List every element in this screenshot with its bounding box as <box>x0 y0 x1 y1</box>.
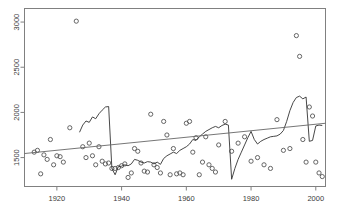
data-point <box>191 150 195 154</box>
data-point <box>217 143 221 147</box>
data-point <box>207 163 211 167</box>
data-point <box>74 19 78 23</box>
data-point <box>242 135 246 139</box>
data-point <box>155 165 159 169</box>
data-point <box>288 146 292 150</box>
data-point <box>90 154 94 158</box>
data-point <box>39 172 43 176</box>
data-point <box>158 171 162 175</box>
data-point <box>223 119 227 123</box>
data-point <box>301 137 305 141</box>
y-tick-label: 1500 <box>12 149 21 166</box>
data-point <box>97 145 101 149</box>
data-point <box>317 171 321 175</box>
data-point <box>262 163 266 167</box>
data-point <box>200 160 204 164</box>
data-point <box>87 141 91 145</box>
data-point <box>268 166 272 170</box>
data-point <box>42 153 46 157</box>
data-point <box>165 133 169 137</box>
data-point <box>197 173 201 177</box>
data-point <box>168 173 172 177</box>
data-point <box>94 163 98 167</box>
data-point <box>314 160 318 164</box>
data-point <box>210 166 214 170</box>
x-tick-label: 1940 <box>113 194 130 203</box>
y-tick-label: 3000 <box>12 14 21 31</box>
data-point <box>281 148 285 152</box>
data-point <box>249 159 253 163</box>
x-tick-label: 2000 <box>307 194 324 203</box>
data-point <box>48 137 52 141</box>
data-point <box>320 174 324 178</box>
data-point <box>129 171 133 175</box>
data-point <box>294 34 298 38</box>
data-point <box>126 175 130 179</box>
plot-svg: 150020002500300019201940196019802000 <box>0 0 340 217</box>
series-lines <box>25 96 326 179</box>
data-point <box>304 160 308 164</box>
y-tick-label: 2000 <box>12 104 21 121</box>
y-tick-label: 2500 <box>12 59 21 76</box>
data-point <box>310 114 314 118</box>
data-point <box>149 112 153 116</box>
data-point <box>307 105 311 109</box>
data-point <box>61 160 65 164</box>
data-point <box>84 155 88 159</box>
data-point <box>45 157 49 161</box>
data-point <box>68 126 72 130</box>
x-tick-label: 1980 <box>243 194 260 203</box>
data-point <box>52 163 56 167</box>
axis-ticks <box>21 22 316 190</box>
data-point <box>136 149 140 153</box>
data-points <box>32 19 324 180</box>
plot-frame <box>25 9 326 187</box>
data-point <box>236 141 240 145</box>
data-point <box>275 118 279 122</box>
x-tick-label: 1960 <box>178 194 195 203</box>
x-tick-label: 1920 <box>49 194 66 203</box>
data-point <box>298 54 302 58</box>
scatter-chart: 150020002500300019201940196019802000 <box>0 0 340 217</box>
data-point <box>171 146 175 150</box>
data-point <box>255 155 259 159</box>
data-point <box>162 119 166 123</box>
data-point <box>213 170 217 174</box>
